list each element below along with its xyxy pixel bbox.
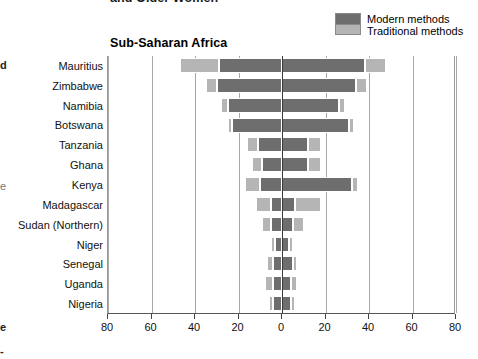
bar-left-traditional xyxy=(247,137,258,152)
bar-left-modern xyxy=(271,197,282,212)
bar-left-modern xyxy=(260,177,282,192)
traditional-methods-swatch xyxy=(335,24,361,35)
bar-left-modern xyxy=(232,118,282,133)
x-axis-tick-label: 40 xyxy=(348,321,388,333)
bar-left-traditional xyxy=(262,217,271,232)
bar-row xyxy=(108,76,454,96)
bar-right-modern xyxy=(282,157,308,172)
bar-left-modern xyxy=(273,276,282,291)
bar-right-traditional xyxy=(352,177,359,192)
legend-label-modern: Modern methods xyxy=(367,13,463,25)
x-axis-tick xyxy=(238,314,239,319)
modern-methods-swatch xyxy=(335,13,361,24)
y-axis-label-senegal: Senegal xyxy=(0,258,103,270)
x-axis-tick-label: 80 xyxy=(87,321,127,333)
x-axis-tick xyxy=(455,314,456,319)
bar-row xyxy=(108,294,454,314)
bar-right-traditional xyxy=(349,118,353,133)
y-axis-label-madagascar: Madagascar xyxy=(0,199,103,211)
chart-legend: Modern methods Traditional methods xyxy=(335,13,463,37)
bar-left-modern xyxy=(275,237,282,252)
bar-right-modern xyxy=(282,177,352,192)
bar-left-traditional xyxy=(245,177,260,192)
bar-left-traditional xyxy=(221,98,228,113)
gridline-80 xyxy=(456,56,457,313)
y-axis-label-ghana: Ghana xyxy=(0,159,103,171)
bar-left-traditional xyxy=(265,276,274,291)
bar-right-traditional xyxy=(295,197,321,212)
bar-left-modern xyxy=(273,296,282,311)
y-axis-label-zimbabwe: Zimbabwe xyxy=(0,80,103,92)
legend-labels: Modern methods Traditional methods xyxy=(367,13,463,37)
bar-row xyxy=(108,254,454,274)
y-axis-label-uganda: Uganda xyxy=(0,278,103,290)
x-axis-tick-label: 0 xyxy=(261,321,301,333)
legend-label-traditional: Traditional methods xyxy=(367,25,463,37)
x-axis-tick xyxy=(151,314,152,319)
bar-right-traditional xyxy=(291,296,295,311)
plot-area xyxy=(107,56,455,314)
bar-right-modern xyxy=(282,137,308,152)
bar-right-traditional xyxy=(289,237,293,252)
x-axis-tick-label: 60 xyxy=(131,321,171,333)
y-axis-label-tanzania: Tanzania xyxy=(0,139,103,151)
bar-row xyxy=(108,56,454,76)
bar-left-traditional xyxy=(180,58,219,73)
bar-right-traditional xyxy=(291,276,298,291)
bar-right-modern xyxy=(282,98,339,113)
x-axis-tick xyxy=(368,314,369,319)
bar-left-modern xyxy=(217,78,282,93)
x-axis-tick-label: 60 xyxy=(392,321,432,333)
bar-row xyxy=(108,175,454,195)
bar-row xyxy=(108,274,454,294)
bar-left-modern xyxy=(219,58,282,73)
bar-right-modern xyxy=(282,58,365,73)
bar-right-traditional xyxy=(293,217,304,232)
x-axis-tick xyxy=(194,314,195,319)
gridline-zero xyxy=(282,56,283,313)
bar-right-traditional xyxy=(293,256,297,271)
bar-right-traditional xyxy=(339,98,346,113)
bar-left-modern xyxy=(262,157,282,172)
y-axis-label-niger: Niger xyxy=(0,239,103,251)
bar-right-traditional xyxy=(365,58,387,73)
x-axis-tick xyxy=(325,314,326,319)
bar-row xyxy=(108,195,454,215)
bar-left-traditional xyxy=(252,157,263,172)
chart-title: Sub-Saharan Africa xyxy=(110,36,227,50)
bar-right-modern xyxy=(282,217,293,232)
bar-left-traditional xyxy=(206,78,217,93)
bar-left-modern xyxy=(273,256,282,271)
bar-right-modern xyxy=(282,197,295,212)
bar-right-modern xyxy=(282,256,293,271)
x-axis-tick-label: 40 xyxy=(174,321,214,333)
bar-row xyxy=(108,135,454,155)
x-axis-tick xyxy=(281,314,282,319)
bar-left-traditional xyxy=(267,256,274,271)
y-axis-label-kenya: Kenya xyxy=(0,179,103,191)
bar-right-modern xyxy=(282,296,291,311)
cutoff-headline: and Older Women xyxy=(110,0,218,5)
x-axis-tick-label: 20 xyxy=(305,321,345,333)
bar-row xyxy=(108,235,454,255)
bar-right-traditional xyxy=(308,157,321,172)
y-axis-label-sudan-northern: Sudan (Northern) xyxy=(0,219,103,231)
bar-row xyxy=(108,215,454,235)
bar-right-traditional xyxy=(308,137,321,152)
bar-left-traditional xyxy=(256,197,271,212)
x-axis-tick-label: 80 xyxy=(435,321,475,333)
bar-left-modern xyxy=(258,137,282,152)
x-axis-tick xyxy=(412,314,413,319)
x-axis: 80604020020406080 xyxy=(107,314,455,340)
bar-row xyxy=(108,116,454,136)
bar-right-modern xyxy=(282,118,349,133)
y-axis-labels: MauritiusZimbabweNamibiaBotswanaTanzania… xyxy=(0,56,107,314)
edge-fragment-3: e xyxy=(0,321,8,333)
y-axis-label-botswana: Botswana xyxy=(0,119,103,131)
edge-fragment-4: - xyxy=(0,345,8,357)
bar-right-traditional xyxy=(356,78,367,93)
bar-left-modern xyxy=(271,217,282,232)
y-axis-label-nigeria: Nigeria xyxy=(0,298,103,310)
bar-left-modern xyxy=(228,98,282,113)
y-axis-label-mauritius: Mauritius xyxy=(0,60,103,72)
